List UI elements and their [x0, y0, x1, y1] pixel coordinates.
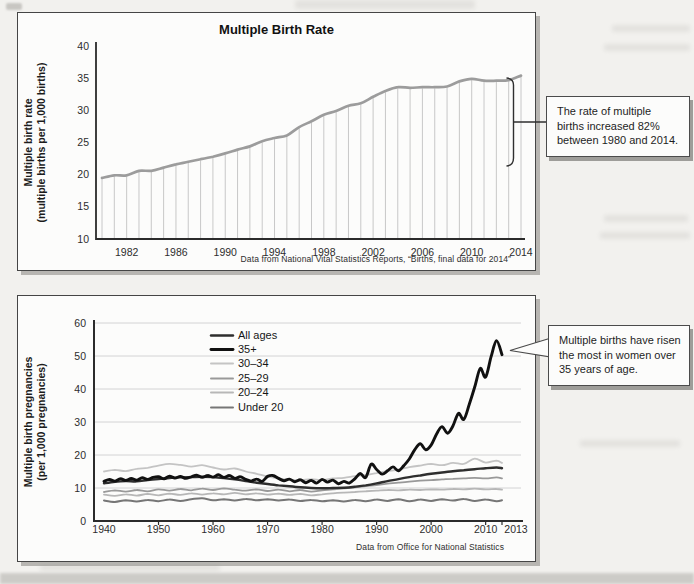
y-axis-label: Multiple birth pregnancies	[22, 357, 34, 488]
y-tick-label: 50	[74, 350, 86, 362]
y-tick-label: 35	[77, 72, 89, 84]
multiple-birth-rate-chart: 4035302520151019821986199019941998200220…	[18, 13, 535, 270]
scanned-textbook-page: Multiple Birth Rate 40353025201510198219…	[0, 0, 694, 584]
bleed-through-text	[295, 0, 475, 9]
y-tick-label: 0	[80, 515, 86, 527]
y-tick-label: 30	[74, 416, 86, 428]
x-tick-label: 2010	[474, 523, 498, 535]
legend-label: 35+	[238, 343, 257, 355]
x-tick-label: 2013	[504, 523, 528, 535]
y-tick-label: 15	[77, 200, 89, 212]
y-tick-label: 30	[77, 104, 89, 116]
series-line-under-20	[104, 498, 502, 502]
legend-label: Under 20	[238, 401, 283, 413]
x-tick-label: 1970	[256, 523, 280, 535]
multiple-birth-pregnancies-chart: 6050403020100194019501960197019801990200…	[18, 296, 535, 561]
legend-label: All ages	[238, 329, 278, 341]
page-bottom-edge	[0, 573, 694, 584]
bottom-chart-panel: 6050403020100194019501960197019801990200…	[17, 295, 536, 562]
bleed-through-text	[604, 215, 688, 222]
scan-artifact	[6, 3, 22, 10]
y-tick-label: 40	[77, 40, 89, 52]
legend-label: 25–29	[238, 372, 269, 384]
series-line-30–34	[104, 459, 502, 481]
top-annotation-callout: The rate of multiple births increased 82…	[546, 96, 690, 157]
legend-label: 30–34	[238, 357, 269, 369]
axes	[96, 42, 525, 239]
legend-label: 20–24	[238, 386, 269, 398]
bottom-chart-source: Data from Office for National Statistics	[356, 542, 504, 552]
y-axis-label: (per 1,000 pregnancies)	[35, 363, 47, 480]
y-tick-label: 25	[77, 136, 89, 148]
bleed-through-text	[612, 25, 690, 32]
bleed-through-text	[580, 440, 680, 447]
y-tick-label: 20	[74, 449, 86, 461]
top-annotation-text: The rate of multiple births increased 82…	[557, 105, 678, 146]
y-tick-label: 20	[77, 168, 89, 180]
top-chart-panel: Multiple Birth Rate 40353025201510198219…	[17, 12, 536, 271]
series-line-35+	[104, 341, 502, 484]
bottom-annotation-callout: Multiple births have risen the most in w…	[548, 325, 690, 386]
x-tick-label: 1950	[147, 523, 171, 535]
x-tick-label: 1980	[310, 523, 334, 535]
x-tick-label: 1990	[365, 523, 389, 535]
x-tick-label: 2014	[509, 246, 533, 258]
x-tick-label: 1940	[92, 523, 116, 535]
y-tick-label: 40	[74, 383, 86, 395]
y-axis-label: (multiple births per 1,000 births)	[35, 63, 47, 223]
bleed-through-text	[604, 44, 690, 51]
x-tick-label: 1960	[201, 523, 225, 535]
bleed-through-text	[600, 232, 690, 239]
y-tick-label: 60	[74, 317, 86, 329]
bleed-through-text	[40, 564, 220, 571]
top-chart-source: Data from National Vital Statistics Repo…	[241, 254, 511, 264]
y-tick-label: 10	[74, 482, 86, 494]
x-tick-label: 1986	[164, 246, 188, 258]
x-tick-label: 2000	[419, 523, 443, 535]
y-tick-label: 10	[77, 233, 89, 245]
x-tick-label: 1990	[214, 246, 238, 258]
bottom-annotation-text: Multiple births have risen the most in w…	[559, 334, 681, 375]
y-axis-label: Multiple birth rate	[22, 98, 34, 186]
x-tick-label: 1982	[115, 246, 139, 258]
